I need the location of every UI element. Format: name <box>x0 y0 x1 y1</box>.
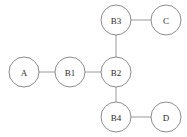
graph-diagram-canvas: B3CAB1B2B4D <box>0 0 187 137</box>
node-label-b3: B3 <box>111 16 122 26</box>
graph-node-b1[interactable]: B1 <box>55 57 85 87</box>
graph-svg: B3CAB1B2B4D <box>0 0 187 137</box>
node-label-c: C <box>163 16 169 26</box>
node-label-a: A <box>21 68 28 78</box>
graph-node-c[interactable]: C <box>151 5 181 35</box>
node-label-b4: B4 <box>111 113 122 123</box>
graph-node-b4[interactable]: B4 <box>101 102 131 132</box>
node-label-b1: B1 <box>65 68 76 78</box>
graph-node-b2[interactable]: B2 <box>101 57 131 87</box>
graph-node-a[interactable]: A <box>9 57 39 87</box>
graph-node-b3[interactable]: B3 <box>101 5 131 35</box>
nodes-layer: B3CAB1B2B4D <box>9 5 181 132</box>
graph-node-d[interactable]: D <box>151 102 181 132</box>
node-label-b2: B2 <box>111 68 122 78</box>
node-label-d: D <box>163 113 170 123</box>
